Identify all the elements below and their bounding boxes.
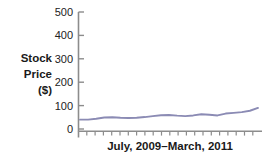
y-tick-label-100: 100	[55, 100, 73, 112]
x-axis-ticks	[79, 131, 253, 137]
y-tick-label-500: 500	[55, 6, 73, 18]
y-axis-label-line-1: Stock	[21, 52, 53, 64]
y-tick-label-0: 0	[67, 123, 73, 135]
y-axis-label-line-3: ($)	[38, 84, 52, 96]
y-tick-label-200: 200	[55, 76, 73, 88]
y-tick-label-300: 300	[55, 53, 73, 65]
data-line-stock-price	[80, 108, 258, 120]
y-axis-label-line-2: Price	[24, 68, 52, 80]
stock-price-line-chart: Stock Price ($) 500 400 300 200 100 0	[0, 0, 266, 160]
chart-canvas: Stock Price ($) 500 400 300 200 100 0	[0, 0, 266, 160]
x-axis-label: July, 2009–March, 2011	[107, 140, 233, 152]
y-axis-ticks	[79, 12, 85, 129]
y-tick-label-400: 400	[55, 29, 73, 41]
